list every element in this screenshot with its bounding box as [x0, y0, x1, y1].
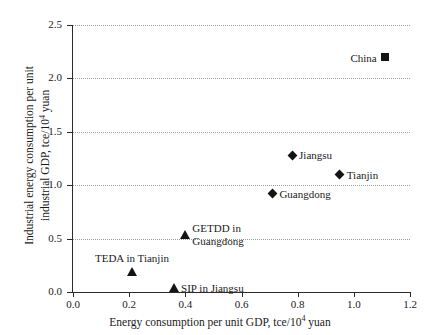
y-tick-mark: [67, 78, 73, 79]
y-axis-title: Industrial energy consumption per unit i…: [22, 30, 53, 280]
x-tick-mark: [185, 292, 186, 297]
x-tick-label-0.4: 0.4: [165, 299, 205, 310]
x-tick-mark: [354, 292, 355, 297]
data-point-label-tianjin: Tianjin: [347, 169, 378, 182]
x-tick-label-0.2: 0.2: [109, 299, 149, 310]
gridline-y-1.0: [73, 185, 410, 186]
y-tick-mark: [67, 132, 73, 133]
x-tick-mark: [298, 292, 299, 297]
y-tick-mark: [67, 185, 73, 186]
scatter-chart: ChinaJiangsuTianjinGuangdongGETDD in Gua…: [0, 0, 440, 335]
y-tick-mark: [67, 239, 73, 240]
x-tick-mark: [410, 292, 411, 297]
x-tick-label-0.6: 0.6: [222, 299, 262, 310]
gridline-y-2.5: [73, 25, 410, 26]
diamond-marker-icon: [267, 189, 277, 199]
x-tick-label-1.0: 1.0: [334, 299, 374, 310]
diamond-marker-icon: [287, 150, 297, 160]
y-axis-title-line1: Industrial energy consumption per unit: [22, 30, 36, 280]
data-point-label-jiangsu: Jiangsu: [299, 149, 332, 162]
gridline-y-2.0: [73, 78, 410, 79]
x-tick-mark: [129, 292, 130, 297]
y-tick-mark: [67, 25, 73, 26]
data-point-label-teda-in-tianjin: TEDA in Tianjin: [95, 252, 169, 265]
data-point-label-getdd-in-guangdong: GETDD in Guangdong: [192, 222, 262, 247]
x-tick-mark: [242, 292, 243, 297]
x-tick-label-0.8: 0.8: [278, 299, 318, 310]
diamond-marker-icon: [335, 170, 345, 180]
y-tick-label-0.0: 0.0: [22, 286, 62, 297]
triangle-marker-icon: [127, 267, 137, 276]
x-tick-mark: [73, 292, 74, 297]
y-tick-label-2.5: 2.5: [22, 19, 62, 30]
data-point-label-guangdong: Guangdong: [279, 188, 330, 201]
x-tick-label-0.0: 0.0: [53, 299, 93, 310]
x-tick-label-1.2: 1.2: [390, 299, 430, 310]
y-axis-title-line2: industrial GDP, tce/104 yuan: [36, 30, 53, 280]
square-marker-icon: [381, 53, 389, 61]
plot-area: ChinaJiangsuTianjinGuangdongGETDD in Gua…: [73, 25, 410, 292]
gridline-y-1.5: [73, 132, 410, 133]
data-point-label-china: China: [350, 52, 376, 65]
x-axis-title-text: Energy consumption per unit GDP, tce/104…: [109, 316, 330, 328]
x-axis-title: Energy consumption per unit GDP, tce/104…: [0, 314, 440, 328]
triangle-marker-icon: [169, 283, 179, 292]
triangle-marker-icon: [180, 230, 190, 239]
y-axis-line: [72, 25, 73, 293]
